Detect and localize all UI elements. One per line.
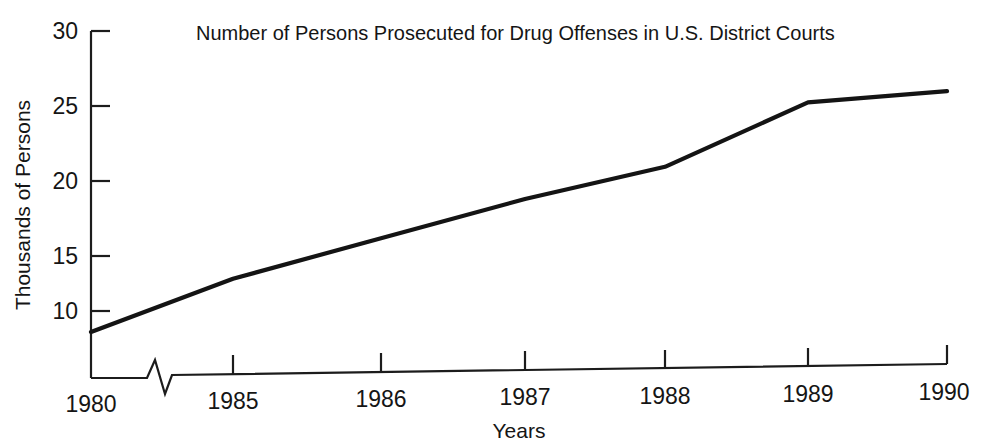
y-tick-label-20: 20 [52, 168, 78, 194]
x-tick-label-1988: 1988 [639, 383, 690, 409]
x-tick-label-1987: 1987 [499, 384, 550, 410]
y-axis-title: Thousands of Persons [11, 100, 34, 310]
y-tick-label-10: 10 [52, 298, 78, 324]
x-axis-title: Years [493, 419, 546, 442]
x-tick-label-1989: 1989 [782, 381, 833, 407]
y-tick-label-15: 15 [52, 243, 78, 269]
data-series-line [91, 91, 947, 332]
chart-title: Number of Persons Prosecuted for Drug Of… [196, 22, 835, 44]
x-tick-label-1990: 1990 [918, 379, 969, 405]
x-tick-label-1986: 1986 [355, 386, 406, 412]
x-tick-label-1980: 1980 [65, 391, 116, 417]
line-chart-figure: Number of Persons Prosecuted for Drug Of… [0, 0, 998, 443]
chart-canvas: Number of Persons Prosecuted for Drug Of… [0, 0, 998, 443]
x-tick-label-1985: 1985 [207, 388, 258, 414]
y-tick-label-30: 30 [52, 18, 78, 44]
y-tick-label-25: 25 [52, 93, 78, 119]
